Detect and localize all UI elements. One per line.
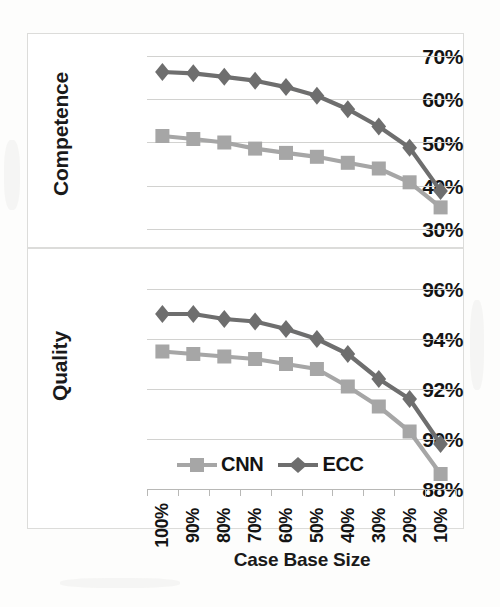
chart-legend: CNN ECC bbox=[176, 453, 364, 476]
scan-smudge-right bbox=[470, 300, 484, 390]
x-axis-title: Case Base Size bbox=[152, 549, 452, 571]
x-tick-mark bbox=[209, 490, 210, 496]
series-line-cnn bbox=[162, 136, 440, 207]
data-point-ecc-100 bbox=[155, 305, 170, 323]
data-point-cnn-30 bbox=[372, 400, 386, 414]
data-point-cnn-50 bbox=[310, 362, 324, 376]
x-tick-label: 10% bbox=[430, 498, 451, 554]
x-tick-label: 40% bbox=[337, 498, 358, 554]
x-tick-mark bbox=[147, 490, 148, 496]
data-point-cnn-50 bbox=[310, 150, 324, 164]
series-lines-competence bbox=[147, 56, 456, 229]
data-point-cnn-60 bbox=[279, 146, 293, 160]
scan-smudge-bottom bbox=[60, 578, 180, 588]
x-tick-mark bbox=[425, 490, 426, 496]
data-point-ecc-80 bbox=[217, 310, 232, 328]
x-tick-mark bbox=[240, 490, 241, 496]
data-point-cnn-70 bbox=[248, 142, 262, 156]
data-point-cnn-100 bbox=[155, 129, 169, 143]
y-axis-title-quality: Quality bbox=[48, 306, 72, 426]
legend-item-ecc[interactable]: ECC bbox=[277, 453, 363, 476]
data-point-cnn-10 bbox=[434, 467, 448, 481]
data-point-ecc-50 bbox=[310, 87, 325, 105]
x-tick-mark bbox=[394, 490, 395, 496]
scan-smudge-left bbox=[4, 140, 20, 210]
y-axis-title-competence: Competence bbox=[49, 64, 73, 204]
x-tick-label: 60% bbox=[276, 498, 297, 554]
x-tick-label: 20% bbox=[399, 498, 420, 554]
data-point-cnn-40 bbox=[341, 156, 355, 170]
x-tick-mark bbox=[302, 490, 303, 496]
ecc-diamond-marker-icon bbox=[277, 456, 319, 474]
data-point-cnn-90 bbox=[186, 132, 200, 146]
legend-label-ecc: ECC bbox=[322, 453, 363, 476]
data-point-ecc-60 bbox=[279, 78, 294, 96]
x-tick-mark bbox=[271, 490, 272, 496]
data-point-cnn-30 bbox=[372, 162, 386, 176]
data-point-cnn-60 bbox=[279, 357, 293, 371]
x-tick-mark bbox=[332, 490, 333, 496]
x-tick-label: 90% bbox=[183, 498, 204, 554]
chart-panel-competence: Competence 70% 60% 50% 40% 30% bbox=[27, 33, 464, 248]
data-point-ecc-50 bbox=[310, 330, 325, 348]
legend-label-cnn: CNN bbox=[221, 453, 263, 476]
data-point-ecc-90 bbox=[186, 64, 201, 82]
x-tick-mark bbox=[456, 490, 457, 496]
data-point-ecc-90 bbox=[186, 305, 201, 323]
data-point-ecc-100 bbox=[155, 63, 170, 81]
x-tick-label: 80% bbox=[214, 498, 235, 554]
x-tick-label: 30% bbox=[368, 498, 389, 554]
chart-panel-quality: Quality 96% 94% 92% 90% 88% CNN bbox=[27, 248, 464, 529]
data-point-cnn-20 bbox=[403, 425, 417, 439]
cnn-square-marker-icon bbox=[176, 456, 218, 474]
data-point-cnn-80 bbox=[217, 136, 231, 150]
data-point-cnn-10 bbox=[434, 200, 448, 214]
data-point-ecc-30 bbox=[371, 118, 386, 136]
x-tick-mark bbox=[178, 490, 179, 496]
data-point-ecc-80 bbox=[217, 68, 232, 86]
data-point-cnn-80 bbox=[217, 350, 231, 364]
data-point-ecc-70 bbox=[248, 72, 263, 90]
data-point-cnn-20 bbox=[403, 175, 417, 189]
legend-item-cnn[interactable]: CNN bbox=[176, 453, 263, 476]
data-point-ecc-70 bbox=[248, 313, 263, 331]
series-line-ecc bbox=[162, 72, 440, 191]
x-tick-label: 100% bbox=[152, 498, 173, 554]
data-point-cnn-90 bbox=[186, 347, 200, 361]
plot-area-competence bbox=[147, 56, 456, 229]
data-point-cnn-40 bbox=[341, 380, 355, 394]
data-point-ecc-60 bbox=[279, 320, 294, 338]
x-tick-label: 70% bbox=[245, 498, 266, 554]
data-point-cnn-100 bbox=[155, 345, 169, 359]
data-point-ecc-40 bbox=[341, 100, 356, 118]
figure-container: Competence 70% 60% 50% 40% 30% Quality 9… bbox=[27, 33, 464, 529]
x-tick-mark bbox=[363, 490, 364, 496]
data-point-cnn-70 bbox=[248, 352, 262, 366]
gridline bbox=[147, 229, 456, 230]
x-tick-label: 50% bbox=[306, 498, 327, 554]
